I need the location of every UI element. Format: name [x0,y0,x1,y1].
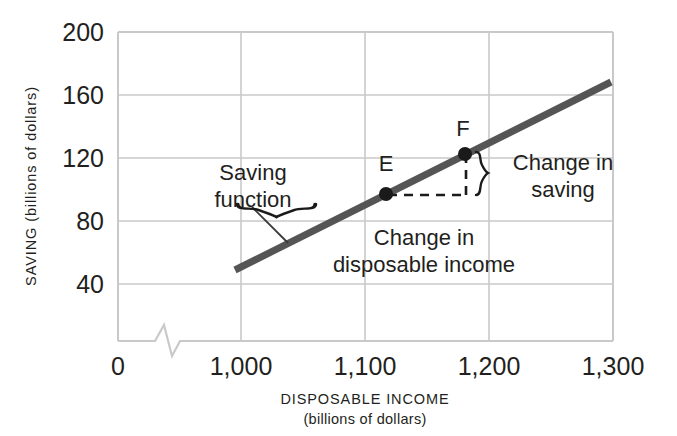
x-axis-subtitle: (billions of dollars) [303,411,426,427]
data-point-label-e: E [379,151,394,176]
saving-function-chart: 200 160 120 80 40 0 1,000 1,100 1,200 1,… [0,0,677,436]
y-tick-160: 160 [62,81,104,109]
x-tick-labels: 0 1,000 1,100 1,200 1,300 [111,352,644,380]
x-tick-1100: 1,100 [334,352,397,380]
x-tick-1300: 1,300 [582,352,645,380]
change-in-disposable-income-line2: disposable income [333,252,515,277]
data-point-f [458,147,472,161]
data-point-e [379,187,393,201]
annotation-saving-function: Saving function [214,160,291,212]
y-tick-200: 200 [62,18,104,46]
data-point-label-f: F [456,116,469,141]
x-axis-title: DISPOSABLE INCOME [280,391,449,407]
change-in-saving-line2: saving [531,177,595,202]
change-in-saving-line1: Change in [513,150,613,175]
x-tick-0: 0 [111,352,125,380]
y-tick-labels: 200 160 120 80 40 [62,18,104,298]
y-tick-120: 120 [62,144,104,172]
y-tick-80: 80 [76,207,104,235]
y-tick-40: 40 [76,270,104,298]
saving-function-label-line2: function [214,187,291,212]
annotation-change-in-disposable-income: Change in disposable income [333,225,515,277]
x-tick-1200: 1,200 [458,352,521,380]
chart-canvas: 200 160 120 80 40 0 1,000 1,100 1,200 1,… [0,0,677,436]
saving-function-leader-line [252,207,288,243]
saving-function-label-line1: Saving [219,160,286,185]
y-axis-title: SAVING (billions of dollars) [23,86,39,286]
annotation-change-in-saving: Change in saving [513,150,613,202]
change-in-disposable-income-line1: Change in [374,225,474,250]
x-tick-1000: 1,000 [210,352,273,380]
